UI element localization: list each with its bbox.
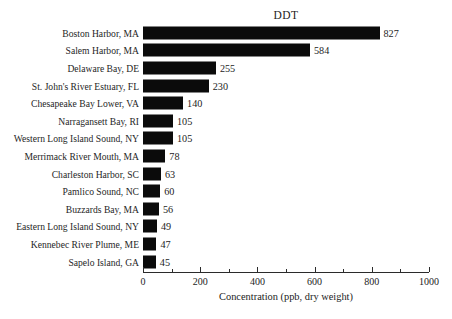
bar	[143, 97, 183, 110]
bar-value-label: 827	[384, 27, 399, 38]
bar-row: Eastern Long Island Sound, NY49	[0, 218, 452, 236]
bar	[143, 237, 156, 250]
category-label: Western Long Island Sound, NY	[0, 133, 139, 144]
bar-value-label: 105	[177, 133, 192, 144]
category-label: Sapelo Island, GA	[0, 256, 139, 267]
category-label: St. John's River Estuary, FL	[0, 80, 139, 91]
bar	[143, 220, 157, 233]
x-axis-tick-label: 200	[193, 276, 208, 287]
bar	[143, 44, 310, 57]
category-label: Delaware Bay, DE	[0, 62, 139, 73]
bar-row: Chesapeake Bay Lower, VA140	[0, 94, 452, 112]
bar-track	[143, 255, 429, 268]
bar-row: Merrimack River Mouth, MA78	[0, 147, 452, 165]
category-label: Buzzards Bay, MA	[0, 203, 139, 214]
bar-track	[143, 167, 429, 180]
category-label: Eastern Long Island Sound, NY	[0, 221, 139, 232]
bar-value-label: 56	[163, 203, 173, 214]
bar	[143, 149, 165, 162]
x-axis-tick-label: 400	[250, 276, 265, 287]
x-axis-line	[143, 272, 429, 273]
bar-value-label: 230	[213, 80, 228, 91]
x-axis-tick-major	[429, 267, 430, 272]
bar	[143, 255, 156, 268]
bar-value-label: 60	[164, 186, 174, 197]
bar-value-label: 78	[169, 150, 179, 161]
category-label: Boston Harbor, MA	[0, 27, 139, 38]
x-axis-tick-major	[200, 267, 201, 272]
chart-title: DDT	[143, 9, 429, 21]
bar-row: Charleston Harbor, SC63	[0, 165, 452, 183]
bar-track	[143, 220, 429, 233]
bar-row: Boston Harbor, MA827	[0, 24, 452, 42]
x-axis-tick-label: 600	[307, 276, 322, 287]
bar-row: Narragansett Bay, RI105	[0, 112, 452, 130]
bar-row: Salem Harbor, MA584	[0, 42, 452, 60]
ddt-concentration-bar-chart: DDT Boston Harbor, MA827Salem Harbor, MA…	[0, 0, 452, 319]
bar	[143, 61, 216, 74]
bar-value-label: 63	[165, 168, 175, 179]
bar-value-label: 105	[177, 115, 192, 126]
x-axis-title: Concentration (ppb, dry weight)	[143, 291, 429, 302]
bar	[143, 79, 209, 92]
x-axis-tick-minor	[286, 269, 287, 272]
bar-value-label: 255	[220, 62, 235, 73]
bar	[143, 26, 380, 39]
x-axis-tick-label: 0	[141, 276, 146, 287]
bar-row: Sapelo Island, GA45	[0, 253, 452, 271]
bar-row: Western Long Island Sound, NY105	[0, 130, 452, 148]
bar-track	[143, 79, 429, 92]
category-label: Narragansett Bay, RI	[0, 115, 139, 126]
bar-value-label: 49	[161, 221, 171, 232]
bar-track	[143, 237, 429, 250]
x-axis-tick-minor	[172, 269, 173, 272]
bar-track	[143, 61, 429, 74]
x-axis-tick-major	[372, 267, 373, 272]
x-axis-tick-major	[143, 267, 144, 272]
bar	[143, 202, 159, 215]
x-axis-tick-minor	[343, 269, 344, 272]
bar-row: St. John's River Estuary, FL230	[0, 77, 452, 95]
bar-row: Buzzards Bay, MA56	[0, 200, 452, 218]
bar-value-label: 140	[187, 98, 202, 109]
bar	[143, 114, 173, 127]
x-axis-tick-label: 1000	[419, 276, 439, 287]
x-axis-tick-major	[315, 267, 316, 272]
bar-track	[143, 185, 429, 198]
bar	[143, 185, 160, 198]
x-axis-tick-label: 800	[364, 276, 379, 287]
bar-row: Kennebec River Plume, ME47	[0, 235, 452, 253]
bar-row: Pamlico Sound, NC60	[0, 182, 452, 200]
bar-track	[143, 97, 429, 110]
bar-track	[143, 202, 429, 215]
category-label: Merrimack River Mouth, MA	[0, 150, 139, 161]
bar	[143, 132, 173, 145]
x-axis-tick-minor	[400, 269, 401, 272]
bar-row: Delaware Bay, DE255	[0, 59, 452, 77]
bar-track	[143, 44, 429, 57]
x-axis-tick-major	[257, 267, 258, 272]
plot-area: Boston Harbor, MA827Salem Harbor, MA584D…	[0, 24, 452, 272]
bar	[143, 167, 161, 180]
category-label: Chesapeake Bay Lower, VA	[0, 98, 139, 109]
category-label: Kennebec River Plume, ME	[0, 238, 139, 249]
category-label: Pamlico Sound, NC	[0, 186, 139, 197]
bar-value-label: 45	[160, 256, 170, 267]
category-label: Salem Harbor, MA	[0, 45, 139, 56]
bar-track	[143, 149, 429, 162]
x-axis: Concentration (ppb, dry weight) 02004006…	[0, 272, 452, 319]
x-axis-tick-minor	[229, 269, 230, 272]
bar-value-label: 47	[160, 238, 170, 249]
category-label: Charleston Harbor, SC	[0, 168, 139, 179]
bar-value-label: 584	[314, 45, 329, 56]
